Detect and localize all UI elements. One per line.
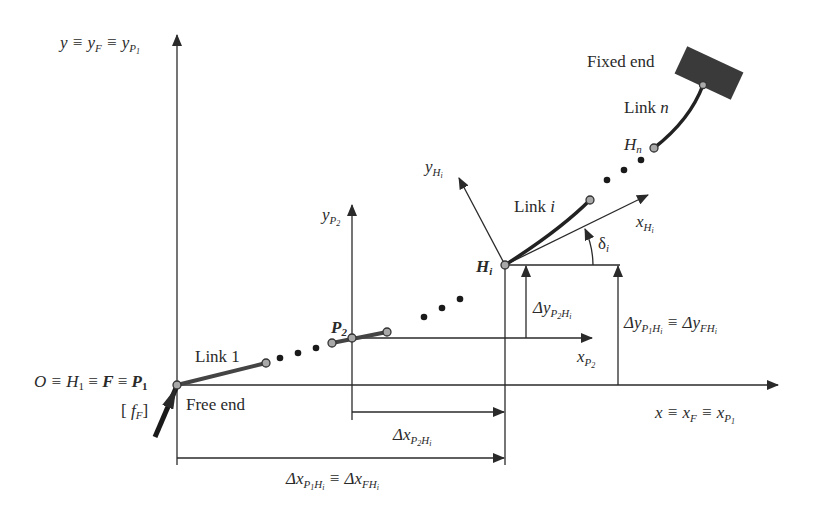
link-i-label: Link i xyxy=(514,197,555,216)
fixed-end-block xyxy=(675,46,744,99)
dy-p1hi-label: ΔyP1Hi ≡ ΔyFHi xyxy=(623,313,717,336)
joint-p2 xyxy=(348,334,356,342)
hi-y-axis xyxy=(459,178,505,265)
ellipsis-dots-2 xyxy=(421,296,464,321)
global-y-axis-label: y ≡ yF ≡ yP1 xyxy=(58,33,140,56)
origin-label: O ≡ H1 ≡ F ≡ P1 xyxy=(34,372,147,392)
kinematic-chain-diagram: y ≡ yF ≡ yP1 x ≡ xF ≡ xP1 O ≡ H1 ≡ F ≡ P… xyxy=(0,0,816,517)
delta-angle-arc xyxy=(585,229,593,265)
dy-p2hi-label: ΔyP2Hi xyxy=(532,298,571,321)
free-end-label: Free end xyxy=(186,395,246,414)
joint-link1-end xyxy=(262,359,270,367)
hi-x-axis-label: xHi xyxy=(635,212,654,235)
dx-p1hi-label: ΔxP1Hi ≡ ΔxFHi xyxy=(285,469,379,492)
joint-hi xyxy=(501,261,509,269)
link-n-label: Link n xyxy=(624,98,669,117)
dx-p2hi-label: ΔxP2Hi xyxy=(392,425,431,448)
joint-p2-end xyxy=(383,328,391,336)
p2-y-axis-label: yP2 xyxy=(320,205,340,228)
hn-label: Hn xyxy=(623,135,642,155)
joint-f xyxy=(173,381,181,389)
force-arrow xyxy=(155,388,176,437)
force-label: [ fF] xyxy=(121,401,148,421)
hi-y-axis-label: yHi xyxy=(423,157,443,180)
p2-label: P2 xyxy=(330,318,347,338)
joint-p2-start xyxy=(328,339,336,347)
ellipsis-dots-3 xyxy=(604,157,645,184)
joint-link-i-end xyxy=(586,196,594,204)
ellipsis-dots-1 xyxy=(277,345,320,362)
delta-angle-label: δi xyxy=(598,234,609,254)
p2-x-axis-label: xP2 xyxy=(576,347,595,370)
link-1-label: Link 1 xyxy=(195,347,240,366)
link-1 xyxy=(177,363,266,385)
joint-hn xyxy=(650,144,658,152)
global-x-axis-label: x ≡ xF ≡ xP1 xyxy=(654,403,735,426)
joint-fixed xyxy=(700,82,707,89)
fixed-end-label: Fixed end xyxy=(587,52,655,71)
hi-label: Hi xyxy=(475,257,493,277)
